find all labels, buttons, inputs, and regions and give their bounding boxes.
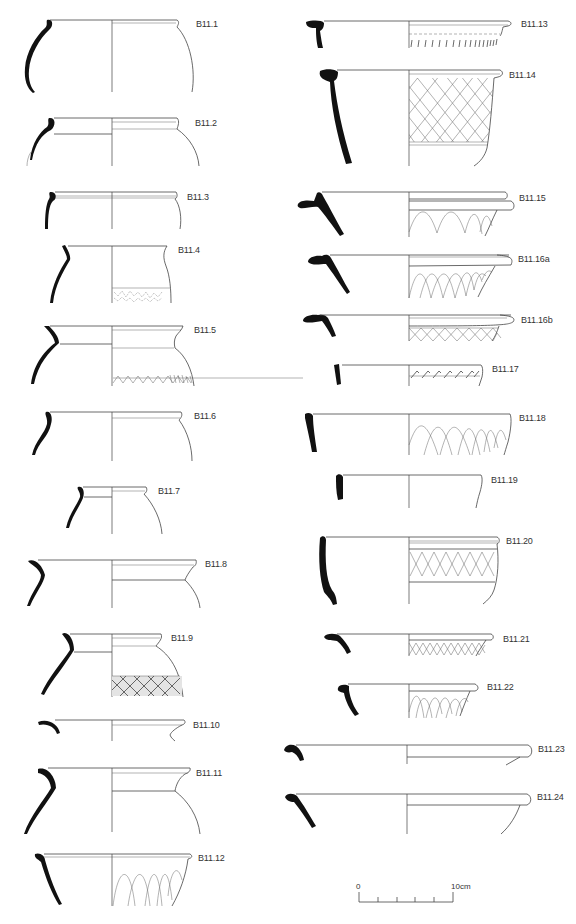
label-b11-13: B11.13: [521, 19, 548, 29]
section-profile: [285, 794, 316, 828]
vessel-b11-12: B11.12: [35, 853, 225, 906]
label-b11-15: B11.15: [519, 193, 546, 203]
vessel-b11-21: B11.21: [324, 634, 530, 656]
lattice-decoration: [409, 328, 501, 341]
zigzag-band: [113, 376, 303, 383]
label-b11-8: B11.8: [205, 559, 227, 569]
vessel-b11-20: B11.20: [319, 536, 533, 605]
vessel-b11-4: B11.4: [50, 245, 200, 303]
section-profile: [41, 633, 74, 695]
lattice-band: [409, 549, 497, 582]
section-profile: [298, 192, 344, 236]
section-profile: [38, 721, 60, 734]
section-profile: [66, 487, 84, 528]
vessel-b11-13: B11.13: [306, 19, 548, 48]
label-b11-4: B11.4: [178, 245, 200, 255]
section-profile: [50, 245, 70, 303]
vessel-b11-23: B11.23: [284, 744, 565, 765]
section-profile: [308, 255, 350, 294]
stroke-decoration: [411, 371, 479, 378]
section-profile: [336, 474, 343, 500]
label-b11-1: B11.1: [196, 19, 218, 29]
vessel-b11-19: B11.19: [336, 474, 518, 508]
section-profile: [31, 326, 59, 384]
scale-start-label: 0: [356, 882, 361, 891]
label-b11-23: B11.23: [538, 744, 565, 754]
vessel-b11-15: B11.15: [298, 192, 546, 237]
section-profile: [334, 364, 341, 385]
label-b11-16a: B11.16a: [518, 254, 550, 264]
vessel-b11-7: B11.7: [66, 486, 180, 534]
arc-decoration: [409, 212, 492, 234]
section-profile: [24, 769, 56, 834]
label-b11-19: B11.19: [491, 475, 518, 485]
label-b11-14: B11.14: [509, 70, 536, 80]
section-profile: [306, 21, 324, 48]
vessel-b11-10: B11.10: [38, 720, 220, 741]
section-profile: [32, 412, 52, 455]
vessel-b11-11: B11.11: [24, 768, 222, 834]
section-profile: [324, 634, 351, 654]
label-b11-5: B11.5: [194, 325, 216, 335]
label-b11-9: B11.9: [171, 633, 193, 643]
lattice-decoration: [409, 643, 485, 655]
label-b11-20: B11.20: [506, 536, 533, 546]
arc-decoration: [409, 426, 506, 455]
vessel-b11-1: B11.1: [25, 19, 218, 93]
section-profile: [25, 20, 52, 93]
label-b11-7: B11.7: [158, 486, 180, 496]
label-b11-17: B11.17: [492, 364, 519, 374]
scale-bar: 0 10cm: [356, 882, 471, 902]
section-profile: [338, 685, 359, 716]
stippled-band: [112, 288, 170, 302]
vessel-b11-2: B11.2: [27, 118, 217, 166]
label-b11-21: B11.21: [503, 634, 530, 644]
section-profile: [45, 192, 56, 229]
label-b11-11: B11.11: [196, 768, 222, 778]
scale-end-label: 10cm: [451, 882, 471, 891]
vessel-b11-8: B11.8: [27, 559, 227, 608]
vessel-b11-22: B11.22: [338, 682, 514, 718]
crosshatch-band: [112, 676, 182, 696]
section-profile: [320, 69, 352, 164]
label-b11-22: B11.22: [487, 682, 514, 692]
stroke-decoration: [411, 39, 497, 47]
label-b11-12: B11.12: [198, 853, 225, 863]
arc-decoration: [113, 871, 182, 906]
label-b11-10: B11.10: [193, 720, 220, 730]
vessel-b11-9: B11.9: [41, 633, 193, 697]
lattice-decoration: [400, 75, 505, 150]
label-b11-24: B11.24: [537, 792, 564, 802]
section-profile: [303, 315, 336, 337]
vessel-b11-24: B11.24: [285, 792, 564, 834]
vessel-b11-18: B11.18: [305, 413, 546, 455]
vessel-b11-14: B11.14: [320, 69, 536, 166]
vessel-b11-16a: B11.16a: [308, 254, 550, 298]
arc-decoration: [409, 696, 468, 718]
vessel-b11-6: B11.6: [32, 411, 216, 461]
section-profile: [35, 853, 62, 905]
section-profile: [284, 745, 304, 761]
label-b11-18: B11.18: [519, 413, 546, 423]
vessel-b11-16b: B11.16b: [303, 315, 553, 341]
pottery-plate: B11.1 B11.2 B11.3 B11.4: [0, 0, 576, 924]
vessel-b11-17: B11.17: [334, 364, 519, 386]
section-profile: [27, 560, 45, 606]
vessel-b11-5: B11.5: [31, 325, 303, 386]
label-b11-2: B11.2: [195, 118, 217, 128]
vessel-b11-3: B11.3: [45, 192, 209, 229]
section-profile: [305, 413, 317, 452]
label-b11-6: B11.6: [194, 411, 216, 421]
label-b11-3: B11.3: [187, 192, 209, 202]
label-b11-16b: B11.16b: [521, 315, 553, 325]
section-profile: [319, 536, 337, 605]
section-profile: [30, 118, 55, 160]
